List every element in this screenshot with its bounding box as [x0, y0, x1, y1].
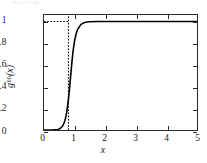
y-axis-title: g10(x)	[2, 46, 16, 106]
x-axis-title-text: x	[101, 144, 105, 155]
y-tick-0.4	[44, 88, 48, 89]
plot-frame	[43, 14, 198, 131]
x-tick-top-2	[106, 15, 107, 19]
y-tick-0.8	[44, 44, 48, 45]
y-tick-right-0.2	[193, 110, 197, 111]
x-tick-label-0: 0	[33, 133, 53, 143]
x-tick-4	[168, 126, 169, 130]
x-axis-title: x	[0, 144, 206, 155]
figure-panel: 10.10.1 100 012345 00.20.40.60.81 x g10(…	[0, 0, 206, 163]
x-tick-1	[75, 126, 76, 130]
x-tick-label-4: 4	[157, 133, 177, 143]
y-tick-right-0.8	[193, 44, 197, 45]
x-tick-2	[106, 126, 107, 130]
plot-area	[44, 15, 197, 130]
caption-fragment-text: 10.10.1 100	[12, 0, 72, 7]
x-tick-top-4	[168, 15, 169, 19]
y-tick-label-0: 0	[2, 126, 7, 136]
y-tick-right-0.6	[193, 66, 197, 67]
plot-canvas	[44, 15, 197, 130]
y-tick-right-0.4	[193, 88, 197, 89]
x-tick-3	[137, 126, 138, 130]
y-tick-0.2	[44, 110, 48, 111]
x-tick-label-5: 5	[188, 133, 207, 143]
x-tick-label-2: 2	[95, 133, 115, 143]
y-tick-label-1: 1	[2, 15, 7, 25]
y-axis-title-subscript: 10	[5, 76, 13, 83]
data-curve-g10	[44, 22, 197, 130]
x-tick-top-1	[75, 15, 76, 19]
y-axis-title-arg: (x)	[4, 64, 15, 75]
y-axis-title-base: g	[4, 83, 15, 88]
y-tick-1	[44, 22, 48, 23]
y-tick-right-1	[193, 22, 197, 23]
x-tick-top-3	[137, 15, 138, 19]
x-tick-label-3: 3	[126, 133, 146, 143]
x-tick-label-1: 1	[64, 133, 84, 143]
y-tick-0.6	[44, 66, 48, 67]
